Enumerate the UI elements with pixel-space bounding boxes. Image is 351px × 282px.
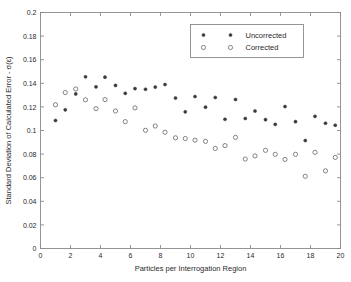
y-tick-label: 0 (33, 245, 37, 252)
x-tick-label: 0 (39, 252, 43, 259)
y-tick-label: 0.06 (23, 174, 37, 181)
data-point (153, 124, 157, 128)
y-tick-label: 0.08 (23, 151, 37, 158)
data-point (124, 92, 127, 95)
data-point (53, 103, 57, 107)
data-point (203, 139, 207, 143)
data-point (313, 150, 317, 154)
data-point (123, 120, 127, 124)
data-point (303, 174, 307, 178)
data-point (114, 84, 117, 87)
data-point (133, 87, 136, 90)
data-point (154, 86, 157, 89)
data-point (293, 152, 297, 156)
data-point (84, 75, 87, 78)
data-point (74, 92, 77, 95)
x-tick-label: 4 (99, 252, 103, 259)
data-point (253, 154, 257, 158)
data-point (233, 135, 237, 139)
y-tick-label: 0.2 (27, 9, 37, 16)
data-point (193, 95, 196, 98)
data-point (283, 157, 287, 161)
series-uncorrected (54, 75, 337, 142)
legend-marker-uncorrected-2 (229, 33, 232, 36)
data-point (163, 130, 167, 134)
y-tick-label: 0.18 (23, 33, 37, 40)
data-point (103, 76, 106, 79)
data-point (263, 148, 267, 152)
y-axis-title: Standard Deviation of Calculated Error -… (4, 56, 13, 205)
scatter-plot: 0246810121416182000.020.040.060.080.10.1… (0, 0, 351, 282)
y-tick-label: 0.1 (27, 127, 37, 134)
data-point (294, 120, 297, 123)
x-tick-label: 20 (337, 252, 345, 259)
y-tick-label: 0.16 (23, 56, 37, 63)
data-point (83, 98, 87, 102)
data-point (213, 146, 217, 150)
data-point (304, 139, 307, 142)
x-tick-label: 10 (187, 252, 195, 259)
data-point (204, 106, 207, 109)
data-point (264, 118, 267, 121)
data-point (223, 144, 227, 148)
data-point (183, 136, 187, 140)
y-tick-label: 0.04 (23, 198, 37, 205)
x-tick-label: 2 (69, 252, 73, 259)
legend: UncorrectedCorrected (191, 25, 304, 58)
data-point (144, 88, 147, 91)
data-point (94, 107, 98, 111)
x-axis-title: Particles per Interrogation Region (135, 264, 247, 273)
figure-canvas: 0246810121416182000.020.040.060.080.10.1… (0, 0, 351, 282)
x-tick-label: 14 (247, 252, 255, 259)
x-tick-label: 12 (217, 252, 225, 259)
legend-label-uncorrected: Uncorrected (246, 31, 287, 40)
data-point (113, 109, 117, 113)
data-point (253, 109, 256, 112)
data-point (133, 106, 137, 110)
legend-marker-uncorrected (202, 33, 205, 36)
data-point (333, 155, 337, 159)
data-point (313, 115, 316, 118)
y-tick-label: 0.12 (23, 104, 37, 111)
data-point (283, 105, 286, 108)
legend-box (191, 25, 304, 58)
y-tick-label: 0.14 (23, 80, 37, 87)
data-point (234, 98, 237, 101)
data-point (214, 96, 217, 99)
data-point (94, 85, 97, 88)
x-tick-label: 6 (129, 252, 133, 259)
data-point (103, 97, 107, 101)
data-point (184, 110, 187, 113)
data-point (64, 108, 67, 111)
x-tick-label: 18 (307, 252, 315, 259)
x-tick-label: 16 (277, 252, 285, 259)
data-point (63, 90, 67, 94)
data-point (54, 119, 57, 122)
data-point (323, 169, 327, 173)
data-point (173, 136, 177, 140)
data-point (274, 123, 277, 126)
legend-label-corrected: Corrected (246, 43, 279, 52)
data-point (244, 117, 247, 120)
data-point (174, 97, 177, 100)
data-point (74, 87, 78, 91)
x-tick-label: 8 (159, 252, 163, 259)
data-point (243, 157, 247, 161)
y-tick-label: 0.02 (23, 222, 37, 229)
data-point (334, 124, 337, 127)
data-point (193, 138, 197, 142)
data-point (163, 83, 166, 86)
data-point (324, 122, 327, 125)
series-corrected (53, 87, 337, 179)
data-point (223, 118, 226, 121)
data-point (143, 128, 147, 132)
data-point (273, 152, 277, 156)
